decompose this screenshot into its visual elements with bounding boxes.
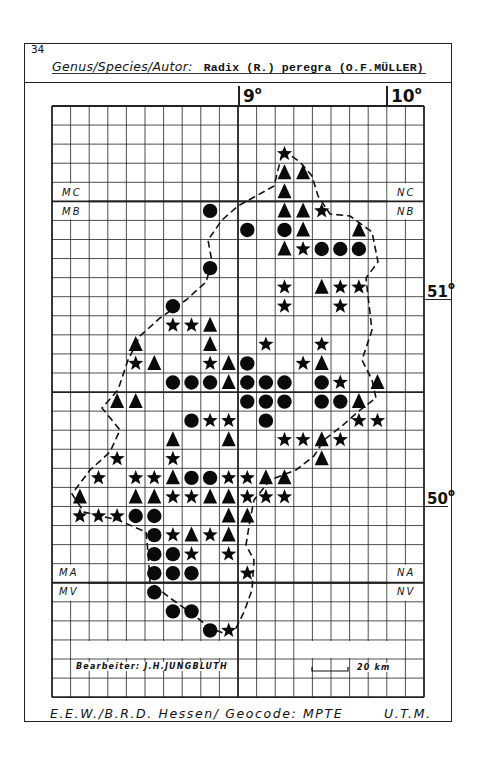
circle-marker-icon bbox=[129, 509, 143, 523]
star-marker-icon bbox=[165, 317, 180, 332]
footer-projection: U.T.M. bbox=[384, 706, 432, 721]
triangle-marker-icon bbox=[166, 431, 180, 446]
circle-marker-icon bbox=[203, 623, 217, 637]
circle-marker-icon bbox=[333, 394, 347, 408]
zone-label-nb: NB bbox=[397, 206, 415, 217]
triangle-marker-icon bbox=[110, 393, 124, 408]
zone-label-mv: MV bbox=[59, 586, 78, 597]
star-marker-icon bbox=[277, 279, 292, 293]
star-marker-icon bbox=[165, 451, 180, 466]
star-marker-icon bbox=[277, 432, 292, 447]
circle-marker-icon bbox=[147, 547, 161, 561]
star-marker-icon bbox=[165, 527, 180, 541]
triangle-marker-icon bbox=[147, 355, 161, 370]
circle-marker-icon bbox=[277, 375, 291, 389]
star-marker-icon bbox=[370, 413, 385, 427]
triangle-marker-icon bbox=[222, 527, 236, 542]
star-marker-icon bbox=[296, 432, 311, 447]
circle-marker-icon bbox=[166, 299, 180, 313]
circle-marker-icon bbox=[240, 394, 254, 408]
circle-marker-icon bbox=[259, 413, 273, 427]
triangle-marker-icon bbox=[73, 488, 87, 503]
star-marker-icon bbox=[314, 203, 329, 218]
triangle-marker-icon bbox=[278, 202, 292, 217]
circle-marker-icon bbox=[184, 471, 198, 485]
star-marker-icon bbox=[72, 508, 87, 523]
circle-marker-icon bbox=[166, 604, 180, 618]
circle-marker-icon bbox=[259, 394, 273, 408]
triangle-marker-icon bbox=[222, 355, 236, 370]
star-marker-icon bbox=[203, 413, 218, 427]
star-marker-icon bbox=[240, 470, 255, 484]
zone-label-nv: NV bbox=[397, 586, 415, 597]
zone-label-mc: MC bbox=[62, 187, 82, 198]
star-marker-icon bbox=[296, 241, 311, 256]
triangle-marker-icon bbox=[203, 317, 217, 332]
triangle-marker-icon bbox=[222, 508, 236, 523]
triangle-marker-icon bbox=[259, 469, 273, 484]
star-marker-icon bbox=[277, 489, 292, 504]
triangle-marker-icon bbox=[166, 469, 180, 484]
star-marker-icon bbox=[296, 355, 311, 370]
circle-marker-icon bbox=[166, 547, 180, 561]
triangle-marker-icon bbox=[315, 355, 329, 370]
triangle-marker-icon bbox=[129, 393, 143, 408]
star-marker-icon bbox=[110, 451, 125, 466]
circle-marker-icon bbox=[240, 356, 254, 370]
circle-marker-icon bbox=[184, 375, 198, 389]
triangle-marker-icon bbox=[278, 183, 292, 198]
triangle-marker-icon bbox=[296, 202, 310, 217]
circle-marker-icon bbox=[184, 413, 198, 427]
star-marker-icon bbox=[333, 298, 348, 313]
zone-label-nc: NC bbox=[397, 187, 415, 198]
circle-marker-icon bbox=[240, 223, 254, 237]
star-marker-icon bbox=[333, 279, 348, 293]
circle-marker-icon bbox=[147, 509, 161, 523]
circle-marker-icon bbox=[352, 242, 366, 256]
zone-label-ma: MA bbox=[59, 567, 78, 578]
star-marker-icon bbox=[184, 489, 199, 504]
triangle-marker-icon bbox=[129, 336, 143, 351]
circle-marker-icon bbox=[147, 528, 161, 542]
triangle-marker-icon bbox=[129, 488, 143, 503]
circle-marker-icon bbox=[203, 261, 217, 275]
star-marker-icon bbox=[91, 508, 106, 523]
circle-marker-icon bbox=[184, 604, 198, 618]
star-marker-icon bbox=[147, 470, 162, 484]
triangle-marker-icon bbox=[315, 279, 329, 294]
star-marker-icon bbox=[91, 470, 106, 484]
zone-label-na: NA bbox=[397, 567, 415, 578]
circle-marker-icon bbox=[259, 375, 273, 389]
circle-marker-icon bbox=[203, 375, 217, 389]
circle-marker-icon bbox=[315, 394, 329, 408]
circle-marker-icon bbox=[315, 242, 329, 256]
star-marker-icon bbox=[184, 317, 199, 332]
circle-marker-icon bbox=[203, 471, 217, 485]
star-marker-icon bbox=[240, 489, 255, 504]
circle-marker-icon bbox=[315, 375, 329, 389]
triangle-marker-icon bbox=[203, 488, 217, 503]
circle-marker-icon bbox=[166, 375, 180, 389]
triangle-marker-icon bbox=[352, 221, 366, 236]
utm-grid-map bbox=[0, 0, 478, 760]
scale-label: 20 km bbox=[357, 663, 391, 672]
star-marker-icon bbox=[221, 546, 236, 561]
star-marker-icon bbox=[128, 355, 143, 370]
triangle-marker-icon bbox=[203, 336, 217, 351]
circle-marker-icon bbox=[147, 585, 161, 599]
star-marker-icon bbox=[333, 432, 348, 447]
star-marker-icon bbox=[184, 546, 199, 561]
triangle-marker-icon bbox=[296, 221, 310, 236]
footer-geocode: E.E.W./B.R.D. Hessen/ Geocode: MPTE bbox=[50, 706, 343, 721]
star-marker-icon bbox=[221, 622, 236, 637]
circle-marker-icon bbox=[277, 223, 291, 237]
triangle-marker-icon bbox=[185, 527, 199, 542]
circle-marker-icon bbox=[166, 566, 180, 580]
circle-marker-icon bbox=[240, 375, 254, 389]
star-marker-icon bbox=[221, 413, 236, 427]
star-marker-icon bbox=[351, 279, 366, 293]
triangle-marker-icon bbox=[147, 488, 161, 503]
star-marker-icon bbox=[240, 565, 255, 580]
author-credit: Bearbeiter: J.H.JUNGBLUTH bbox=[76, 662, 228, 671]
triangle-marker-icon bbox=[222, 488, 236, 503]
